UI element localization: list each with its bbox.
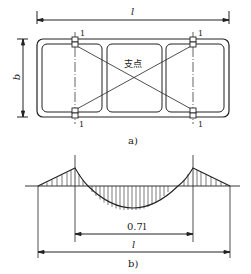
- length-label-b: l: [132, 240, 135, 250]
- length-label-a: l: [131, 7, 134, 17]
- cell-left: [42, 44, 102, 112]
- support-marker-top-left: 1: [80, 29, 85, 39]
- cell-right: [166, 44, 224, 112]
- support-marker-top-right: 1: [198, 29, 203, 39]
- support-label: 支点: [124, 59, 142, 69]
- support-marker-bottom-left: 1: [79, 120, 84, 130]
- caption-a: a): [128, 136, 138, 146]
- dimension-span-07l: [75, 233, 193, 236]
- width-label: b: [12, 74, 22, 80]
- diagram-canvas: [0, 0, 251, 274]
- support-marker-bottom-right: 1: [198, 120, 203, 130]
- caption-b: b): [128, 259, 138, 269]
- dimension-length-b: [38, 251, 230, 254]
- span-label-07l: 0.7l: [127, 222, 146, 232]
